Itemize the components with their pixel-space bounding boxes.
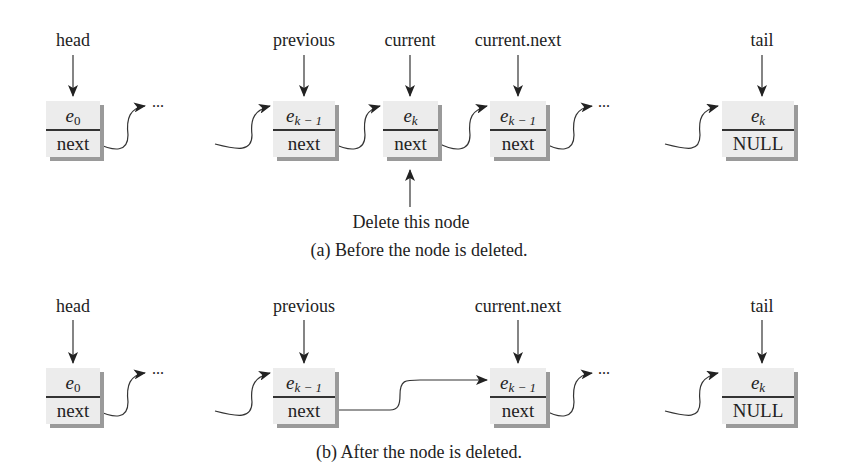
ellipsis: ... (598, 93, 610, 111)
current-next-label: current.next (475, 296, 561, 316)
delete-annotation: Delete this node (353, 212, 470, 233)
previous-next-bypass-link (332, 380, 487, 410)
node-e0: e0 next (46, 101, 100, 157)
node-element: e0 (46, 101, 100, 131)
node-element: ek (722, 101, 794, 131)
previous-label: previous (273, 30, 335, 50)
ellipsis: ... (598, 360, 610, 378)
node-current-next: ek − 1 next (490, 368, 546, 424)
node-tail: ek NULL (722, 101, 794, 157)
node-link: next (490, 131, 546, 157)
node-element: ek − 1 (490, 368, 546, 398)
incoming-tail-link-b (665, 373, 718, 415)
node-element: ek (722, 368, 794, 398)
current-label: current (385, 30, 436, 50)
tail-label: tail (751, 30, 774, 50)
node-element: ek − 1 (273, 368, 335, 398)
tail-label: tail (751, 296, 774, 316)
current-next-next-link-b (544, 373, 592, 416)
incoming-tail-link (665, 106, 718, 148)
caption-a: (a) Before the node is deleted. (311, 240, 528, 261)
node-link: next (383, 131, 438, 157)
node-link: next (490, 398, 546, 424)
node-previous: ek − 1 next (273, 368, 335, 424)
incoming-previous-link-b (215, 373, 270, 415)
node-element: ek (383, 101, 438, 131)
node-element: ek − 1 (490, 101, 546, 131)
node-link: next (46, 398, 100, 424)
current-next-link (438, 106, 487, 149)
node-e0: e0 next (46, 368, 100, 424)
node-link: NULL (722, 398, 794, 424)
ellipsis: ... (152, 360, 164, 378)
head-label: head (56, 30, 90, 50)
incoming-previous-link (215, 106, 270, 148)
current-next-next-link (544, 106, 592, 149)
node-link: next (46, 131, 100, 157)
node-link: next (273, 398, 335, 424)
head-label: head (56, 296, 90, 316)
node-current: ek next (383, 101, 438, 157)
e0-next-link-b (96, 373, 145, 416)
current-next-label: current.next (475, 30, 561, 50)
caption-b: (b) After the node is deleted. (316, 442, 522, 463)
ellipsis: ... (152, 93, 164, 111)
previous-next-link (332, 106, 380, 149)
node-element: e0 (46, 368, 100, 398)
node-previous: ek − 1 next (273, 101, 335, 157)
previous-label: previous (273, 296, 335, 316)
node-link: NULL (722, 131, 794, 157)
node-element: ek − 1 (273, 101, 335, 131)
node-current-next: ek − 1 next (490, 101, 546, 157)
node-tail: ek NULL (722, 368, 794, 424)
node-link: next (273, 131, 335, 157)
arrows-layer (0, 0, 847, 475)
e0-next-link (96, 106, 145, 149)
